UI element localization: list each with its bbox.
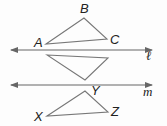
diagram-svg: B A C Y X Z ℓ m <box>0 0 167 126</box>
label-x: X <box>33 109 44 124</box>
triangle-abc <box>46 18 107 44</box>
label-b: B <box>80 1 89 16</box>
reflection-diagram: B A C Y X Z ℓ m <box>0 0 167 126</box>
label-c: C <box>110 32 120 47</box>
label-line-l: ℓ <box>146 48 152 63</box>
label-z: Z <box>110 104 120 119</box>
label-a: A <box>33 35 43 50</box>
triangle-reflected-image <box>47 55 108 80</box>
label-line-m: m <box>143 84 152 99</box>
label-y: Y <box>91 83 101 98</box>
